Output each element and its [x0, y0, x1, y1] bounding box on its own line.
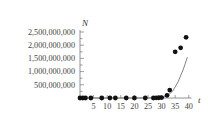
- x-axis-title: t: [198, 95, 201, 105]
- x-tick-label: 20: [130, 102, 138, 111]
- data-point: [83, 96, 88, 101]
- data-point: [178, 45, 183, 50]
- y-tick-label: 1,500,000,000: [28, 54, 75, 63]
- data-point: [159, 95, 164, 100]
- data-points: [78, 35, 189, 101]
- y-tick-label: 1,000,000,000: [28, 67, 75, 76]
- data-point: [108, 96, 113, 101]
- y-axis-title: N: [81, 18, 89, 28]
- y-axis-tick-labels: 500,000,0001,000,000,0001,500,000,0002,0…: [28, 28, 75, 90]
- x-tick-label: 5: [92, 102, 96, 111]
- x-tick-label: 35: [171, 102, 179, 111]
- data-point: [165, 93, 170, 98]
- y-tick-label: 2,500,000,000: [28, 28, 75, 37]
- x-tick-label: 30: [158, 102, 166, 111]
- y-tick-label: 500,000,000: [34, 81, 75, 90]
- x-tick-label: 10: [103, 102, 111, 111]
- data-point: [143, 96, 148, 101]
- x-tick-label: 15: [117, 102, 125, 111]
- data-point: [184, 35, 189, 40]
- x-axis-tick-labels: 510152025303540: [92, 102, 193, 111]
- data-point: [99, 96, 104, 101]
- y-tick-label: 2,000,000,000: [28, 41, 75, 50]
- data-point: [173, 49, 178, 54]
- scatter-chart: 500,000,0001,000,000,0001,500,000,0002,0…: [0, 0, 208, 121]
- data-point: [124, 96, 129, 101]
- data-point: [167, 88, 172, 93]
- data-point: [113, 96, 118, 101]
- x-tick-label: 25: [144, 102, 152, 111]
- data-point: [132, 96, 137, 101]
- x-tick-label: 40: [185, 102, 193, 111]
- data-point: [88, 96, 93, 101]
